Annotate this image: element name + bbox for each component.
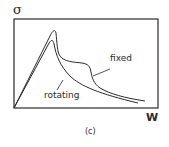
rotating-curve-label: rotating xyxy=(44,91,80,100)
rotating-leader-line xyxy=(57,80,63,90)
fixed-curve-label: fixed xyxy=(110,54,132,63)
plot-frame xyxy=(14,19,158,108)
fixed-curve xyxy=(14,31,145,108)
fixed-leader-line xyxy=(93,69,110,76)
y-axis-label: σ xyxy=(13,3,22,16)
x-axis-label: W xyxy=(146,112,158,123)
panel-caption: (c) xyxy=(85,128,96,136)
stress-strain-diagram xyxy=(0,0,169,147)
